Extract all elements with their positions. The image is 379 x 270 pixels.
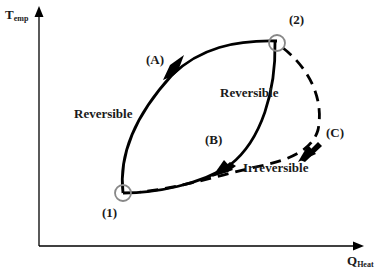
y-axis-arrow-icon: [35, 6, 44, 17]
irreversible-label: Irreversible: [243, 161, 308, 174]
reversible-middle-label: Reversible: [220, 86, 278, 99]
x-axis-arrow-icon: [353, 242, 364, 251]
x-axis: [39, 242, 364, 251]
path-a-label: (A): [146, 53, 164, 66]
y-axis-label-sub: emp: [14, 14, 29, 23]
x-axis-label-main: Q: [347, 253, 357, 268]
x-axis-label: QHeat: [347, 254, 374, 269]
y-axis-label: Temp: [5, 8, 28, 23]
point-1-label: (1): [102, 206, 117, 219]
x-axis-label-sub: Heat: [357, 260, 373, 269]
y-axis-label-main: T: [5, 7, 14, 22]
point-2-label: (2): [289, 13, 304, 26]
point-2-marker: [269, 35, 285, 51]
path-b-label: (B): [205, 133, 222, 146]
reversible-left-label: Reversible: [74, 107, 132, 120]
y-axis: [35, 6, 44, 246]
path-c-label: (C): [326, 126, 344, 139]
process-diagram: [0, 0, 379, 270]
